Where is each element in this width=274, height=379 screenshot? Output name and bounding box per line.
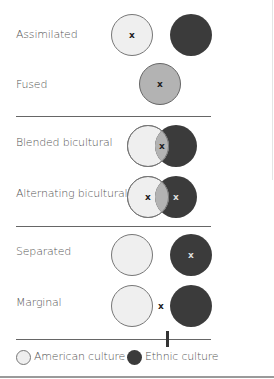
axis-line	[16, 339, 211, 340]
page-edge	[272, 0, 273, 180]
identity-marker: x	[158, 302, 164, 311]
identity-marker-american: x	[145, 193, 151, 202]
identity-marker: x	[159, 142, 165, 151]
divider	[16, 226, 211, 227]
american-culture-circle	[111, 285, 153, 327]
bottom-border	[0, 376, 274, 378]
legend-american-label: American culture	[34, 350, 125, 363]
axis-tick	[166, 331, 169, 347]
legend-american-swatch-icon	[16, 350, 31, 365]
row-label-alternating-bicultural: Alternating bicultural	[16, 187, 127, 200]
american-culture-circle	[111, 234, 153, 276]
identity-marker: x	[188, 251, 194, 260]
row-label-marginal: Marginal	[16, 296, 61, 309]
ethnic-culture-circle	[170, 285, 212, 327]
legend-ethnic-swatch-icon	[127, 350, 142, 365]
identity-marker-ethnic: x	[173, 193, 179, 202]
row-label-separated: Separated	[16, 245, 71, 258]
legend-ethnic-label: Ethnic culture	[145, 350, 218, 363]
